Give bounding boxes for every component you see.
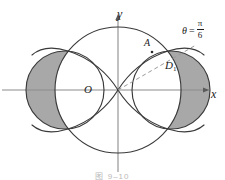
equals-sign: = — [189, 26, 195, 36]
origin-label: O — [84, 84, 92, 95]
theta-symbol: θ — [182, 26, 187, 36]
region-d1-label: D1 — [165, 60, 176, 73]
region-d1-subscript: 1 — [173, 65, 177, 73]
theta-equation-label: θ = π 6 — [182, 20, 204, 41]
point-a-label: A — [144, 38, 150, 48]
fraction-numerator: π — [197, 19, 204, 28]
figure-caption: 图 9–10 — [0, 170, 225, 180]
math-figure: y x O A D1 θ = π 6 图 9–10 — [0, 0, 225, 180]
region-d1-letter: D — [165, 59, 173, 71]
pi-over-six-fraction: π 6 — [197, 19, 204, 40]
y-axis-label: y — [117, 8, 122, 20]
fraction-denominator: 6 — [197, 31, 204, 40]
x-axis-label: x — [211, 88, 216, 100]
point-a-marker — [151, 51, 154, 54]
